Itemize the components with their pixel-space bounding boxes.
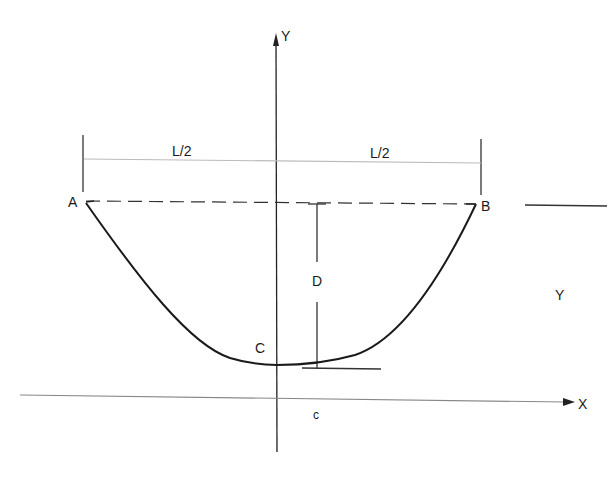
- right-half-span-label: L/2: [370, 146, 389, 160]
- span-dimension-line: [84, 159, 481, 163]
- y-axis-arrow-icon: [273, 33, 279, 46]
- chord-ab-dashed: [86, 201, 475, 204]
- catenary-curve: [86, 203, 476, 365]
- left-half-span-label: L/2: [172, 144, 191, 158]
- lowest-point-reference-line: [302, 368, 381, 369]
- y-axis-label: Y: [281, 29, 290, 43]
- point-b-label: B: [481, 199, 490, 213]
- catenary-diagram: [0, 0, 614, 480]
- side-y-label: Y: [555, 288, 564, 302]
- x-axis-arrow-icon: [563, 398, 575, 406]
- point-c-label: C: [255, 341, 265, 355]
- point-a-label: A: [68, 195, 77, 209]
- x-axis-label: X: [578, 397, 587, 411]
- y-axis: [276, 38, 277, 452]
- support-a-marker: [86, 201, 94, 202]
- x-axis: [20, 395, 566, 402]
- right-reference-line: [525, 205, 607, 206]
- sag-depth-label: D: [312, 274, 322, 288]
- lowest-point-height-label: c: [313, 409, 319, 421]
